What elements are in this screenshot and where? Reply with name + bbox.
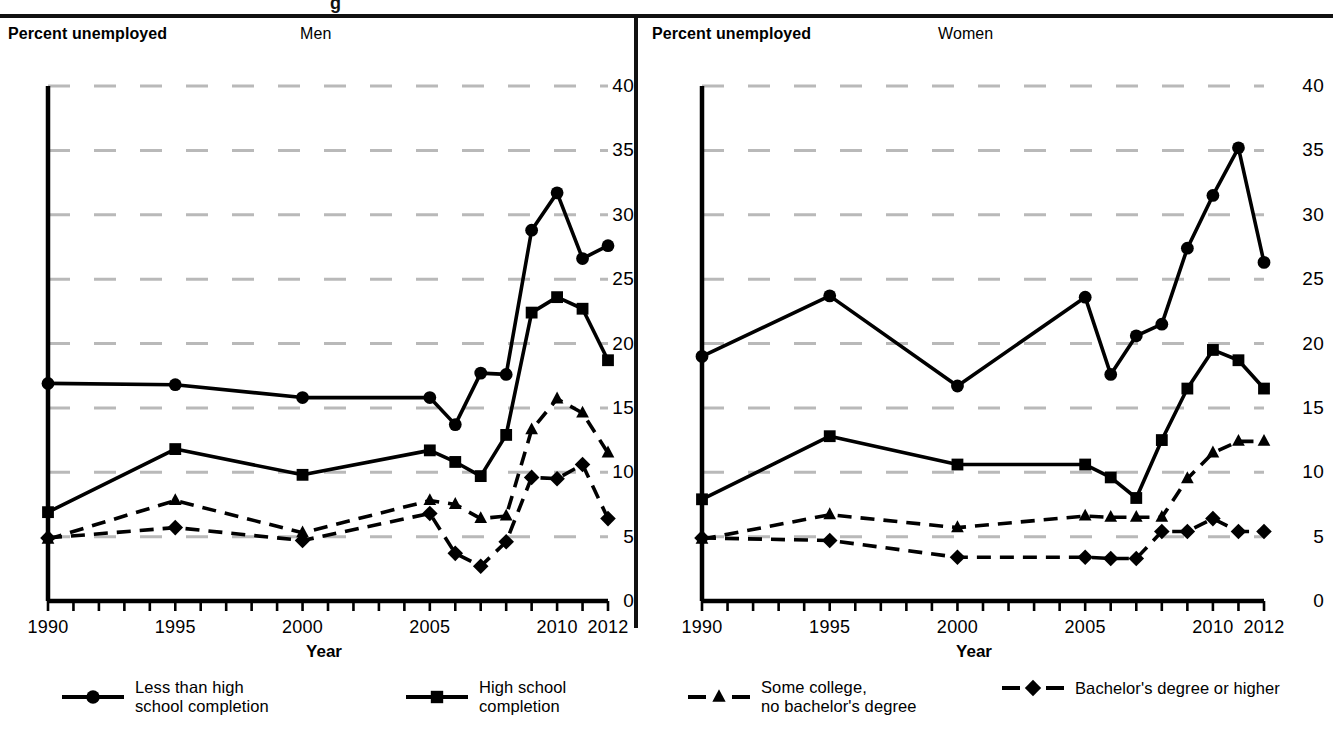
data-point xyxy=(42,377,55,390)
data-point xyxy=(1130,492,1142,504)
x-tick-label: 2012 xyxy=(587,617,628,638)
legend-item-less-than-high-school[interactable]: Less than high school completion xyxy=(60,678,375,716)
figure-root: g Percent unemployed Men 051015202530354… xyxy=(0,0,1333,737)
legend-label: Less than high school completion xyxy=(135,678,375,716)
x-tick-label: 2010 xyxy=(536,617,577,638)
data-point xyxy=(1207,446,1220,458)
series-line-1 xyxy=(702,350,1264,499)
data-point xyxy=(297,469,309,481)
data-point xyxy=(1258,434,1271,446)
data-point xyxy=(950,549,966,565)
chart-legend: Less than high school completionHigh sch… xyxy=(0,672,1333,734)
women-panel-title: Women xyxy=(938,25,993,43)
data-point xyxy=(1156,434,1168,446)
panel-women: Percent unemployed Women 051015202530354… xyxy=(638,18,1333,678)
data-point xyxy=(449,418,462,431)
data-point xyxy=(824,430,836,442)
data-point xyxy=(696,493,708,505)
legend-label: Bachelor's degree or higher xyxy=(1075,679,1333,698)
data-point xyxy=(474,367,487,380)
data-point xyxy=(551,186,564,199)
series-line-1 xyxy=(48,297,608,512)
data-point xyxy=(1103,551,1119,567)
x-tick-label: 1990 xyxy=(681,617,722,638)
y-tick-label: 35 xyxy=(598,139,634,161)
y-tick-label: 5 xyxy=(598,526,634,548)
data-point xyxy=(526,307,538,319)
data-point xyxy=(551,391,564,403)
legend-item-bachelors-or-higher[interactable]: Bachelor's degree or higher xyxy=(1000,678,1333,698)
women-yaxis-caption: Percent unemployed xyxy=(652,25,811,43)
data-point xyxy=(951,380,964,393)
series-line-0 xyxy=(702,148,1264,386)
x-tick-label: 2005 xyxy=(1065,617,1106,638)
y-tick-label: 15 xyxy=(598,397,634,419)
series-line-0 xyxy=(48,193,608,425)
y-tick-label: 10 xyxy=(1278,461,1324,483)
legend-marker-circle-icon xyxy=(60,687,126,707)
data-point xyxy=(1077,549,1093,565)
data-point xyxy=(1205,511,1221,527)
men-panel-title: Men xyxy=(300,25,331,43)
data-point xyxy=(296,391,309,404)
data-point xyxy=(167,520,183,536)
panel-men: Percent unemployed Men 05101520253035401… xyxy=(0,18,634,678)
data-point xyxy=(602,354,614,366)
men-xaxis-title: Year xyxy=(306,642,342,662)
y-tick-label: 15 xyxy=(1278,397,1324,419)
data-point xyxy=(1155,318,1168,331)
y-tick-label: 0 xyxy=(1278,590,1324,612)
y-tick-label: 25 xyxy=(598,268,634,290)
data-point xyxy=(423,493,436,505)
x-tick-label: 1995 xyxy=(809,617,850,638)
x-tick-label: 1990 xyxy=(27,617,68,638)
data-point xyxy=(1258,256,1271,269)
x-tick-label: 2000 xyxy=(282,617,323,638)
legend-label: Some college, no bachelor's degree xyxy=(761,678,1021,716)
y-tick-label: 20 xyxy=(598,333,634,355)
y-tick-label: 10 xyxy=(598,461,634,483)
x-tick-label: 2000 xyxy=(937,617,978,638)
data-point xyxy=(1181,383,1193,395)
data-point xyxy=(1231,524,1247,540)
x-tick-label: 2010 xyxy=(1192,617,1233,638)
women-plot-area: 0510152025303540199019952000200520102012 xyxy=(644,48,1324,628)
data-point xyxy=(1233,354,1245,366)
legend-label: High school completion xyxy=(479,678,689,716)
legend-item-some-college[interactable]: Some college, no bachelor's degree xyxy=(686,678,1021,716)
x-tick-label: 1995 xyxy=(155,617,196,638)
data-point xyxy=(1258,383,1270,395)
data-point xyxy=(475,470,487,482)
data-point xyxy=(1104,368,1117,381)
data-point xyxy=(295,533,311,549)
women-xaxis-title: Year xyxy=(956,642,992,662)
legend-marker-square-icon xyxy=(404,687,470,707)
data-point xyxy=(1181,242,1194,255)
data-point xyxy=(952,459,964,471)
data-point xyxy=(551,291,563,303)
data-point xyxy=(449,456,461,468)
data-point xyxy=(500,509,513,521)
data-point xyxy=(1207,344,1219,356)
men-plot-area: 0510152025303540199019952000200520102012 xyxy=(0,48,634,628)
y-tick-label: 40 xyxy=(1278,75,1324,97)
y-tick-label: 30 xyxy=(1278,204,1324,226)
data-point xyxy=(823,289,836,302)
data-point xyxy=(423,391,436,404)
data-point xyxy=(602,239,615,252)
y-tick-label: 0 xyxy=(598,590,634,612)
data-point xyxy=(822,533,838,549)
data-point xyxy=(1232,141,1245,154)
data-point xyxy=(169,493,182,505)
data-point xyxy=(575,457,591,473)
data-point xyxy=(169,443,181,455)
data-point xyxy=(424,444,436,456)
y-tick-label: 25 xyxy=(1278,268,1324,290)
legend-item-high-school[interactable]: High school completion xyxy=(404,678,689,716)
x-tick-label: 2012 xyxy=(1243,617,1284,638)
y-tick-label: 35 xyxy=(1278,139,1324,161)
y-tick-label: 30 xyxy=(598,204,634,226)
plot-women-svg xyxy=(644,48,1324,628)
data-point xyxy=(1079,291,1092,304)
men-yaxis-caption: Percent unemployed xyxy=(8,25,167,43)
